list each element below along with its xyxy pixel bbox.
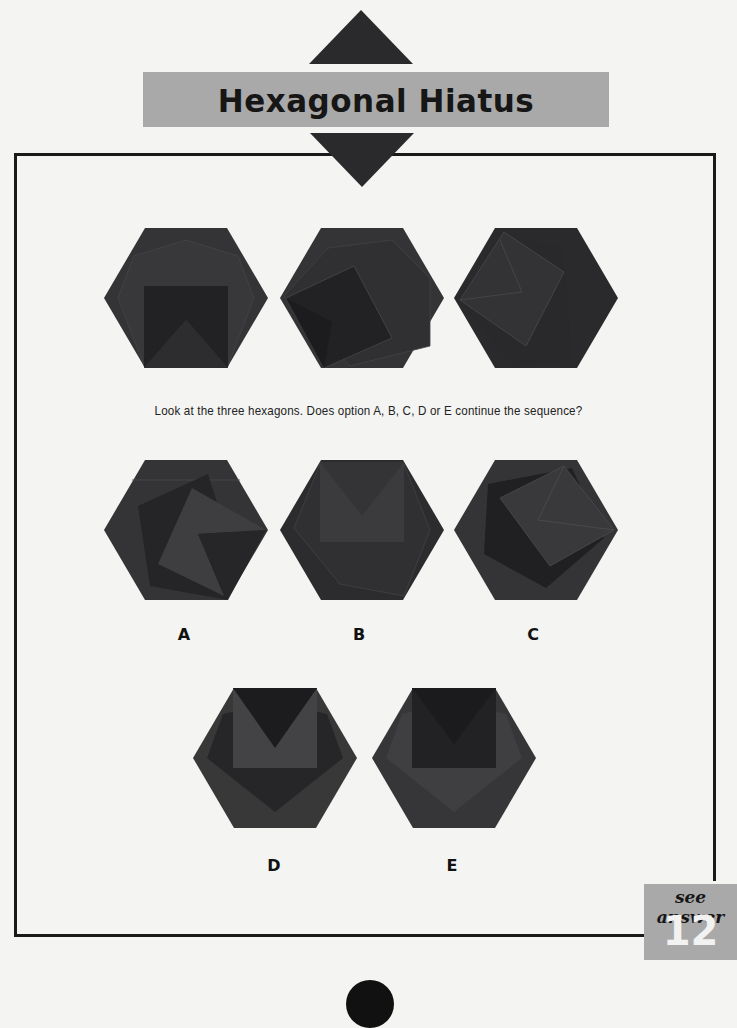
see-answer-box[interactable]: see answer 12: [644, 884, 737, 960]
title-banner: Hexagonal Hiatus: [143, 72, 609, 127]
option-e-hexagon[interactable]: [372, 688, 536, 828]
title-triangle-up-icon: [309, 10, 413, 64]
option-a-label[interactable]: A: [164, 625, 204, 644]
option-a-hexagon[interactable]: [104, 460, 268, 600]
option-c-hexagon[interactable]: [454, 460, 618, 600]
title-triangle-down-icon: [310, 133, 414, 187]
option-e-label[interactable]: E: [432, 856, 472, 875]
frame-border-bottom: [14, 934, 647, 937]
frame-border-left: [14, 153, 17, 937]
page-marker-icon: [346, 980, 394, 1028]
sequence-hexagon-2: [280, 228, 444, 368]
sequence-hexagon-1: [104, 228, 268, 368]
option-c-label[interactable]: C: [513, 625, 553, 644]
page-title: Hexagonal Hiatus: [218, 81, 535, 119]
option-d-label[interactable]: D: [254, 856, 294, 875]
sequence-hexagon-3: [454, 228, 618, 368]
option-d-hexagon[interactable]: [193, 688, 357, 828]
option-b-label[interactable]: B: [339, 625, 379, 644]
answer-number: 12: [644, 908, 737, 954]
question-text: Look at the three hexagons. Does option …: [52, 403, 686, 418]
frame-border-right: [713, 153, 716, 881]
option-b-hexagon[interactable]: [280, 460, 444, 600]
